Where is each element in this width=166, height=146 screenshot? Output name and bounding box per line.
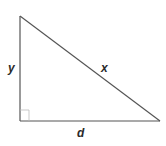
right-angle-marker — [20, 110, 29, 121]
right-triangle-diagram: y x d — [0, 0, 166, 146]
label-y: y — [7, 61, 16, 75]
label-d: d — [77, 126, 85, 140]
label-x: x — [100, 61, 109, 75]
hypotenuse — [20, 16, 160, 121]
